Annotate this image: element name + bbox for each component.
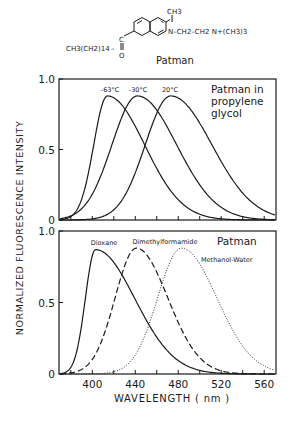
y-axis-label: NORMALIZED FLUORESCENCE INTENSITY [14,121,25,336]
methyl-label: CH3 [167,8,182,16]
series-label: 20°C [162,86,179,94]
molecule-name: Patman [156,55,194,66]
carbonyl-oxygen: O [119,52,125,60]
plot-title: propylene [211,95,264,107]
plot-title: glycol [211,107,242,119]
plot-title: Patman in [211,83,264,95]
curve-20-c [60,96,275,220]
curve-dimethylformamide [60,248,275,374]
chain-bond: – [111,45,115,53]
series-label: -63°C [101,86,120,94]
y-tick-label: 1.0 [38,225,55,237]
y-tick-label: 0.5 [38,144,55,156]
plot-title: Patman [217,235,257,247]
y-tick-label: 0 [48,368,55,380]
x-tick-label: 520 [211,378,231,390]
amine-chain-label: N–CH2–CH2 N+(CH3)3 [168,28,247,36]
curve--30-c [60,96,275,220]
left-chain-label: CH3(CH2)14 [66,45,110,53]
plot-propylene-glycol: 00.51.0-63°C-30°C20°CPatman inpropyleneg… [38,73,276,226]
x-tick-label: 440 [125,378,145,390]
plot-frame [59,231,276,374]
y-tick-label: 1.0 [38,73,55,85]
series-label: Dimethylformamide [133,238,198,246]
x-tick-label: 480 [168,378,188,390]
x-axis-label: WAVELENGTH ( nm ) [114,393,230,404]
carbonyl-carbon: C [119,36,124,44]
x-tick-label: 560 [254,378,274,390]
curve--63-c [60,96,275,220]
series-label: -30°C [129,86,148,94]
series-label: Dioxane [91,239,118,247]
patman-structure [121,15,172,50]
series-label: Methanol-Water [201,256,253,264]
x-tick-label: 400 [82,378,102,390]
curve-methanol-water [60,248,275,374]
y-tick-label: 0.5 [38,297,55,309]
naphthalene-ring-left [134,18,150,36]
plot-solvents: 00.51.0400440480520560DioxaneDimethylfor… [38,225,276,390]
figure: CH3 N–CH2–CH2 N+(CH3)3 CH3(CH2)14 – C O … [0,0,294,424]
